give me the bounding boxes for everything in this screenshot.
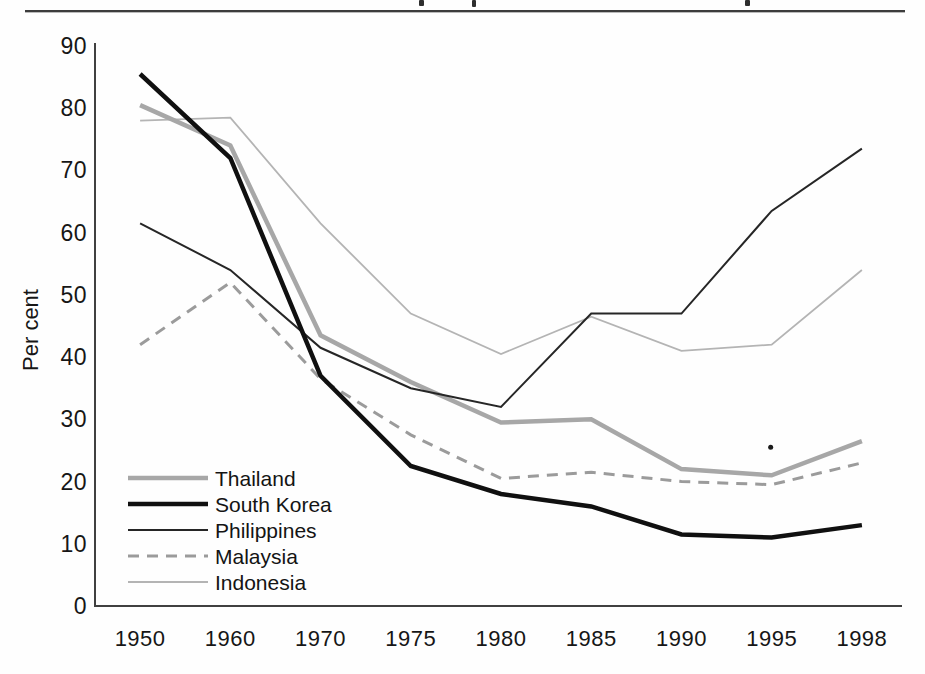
legend-line-sample (128, 573, 208, 591)
y-tick-label-20: 20 (39, 470, 87, 493)
x-tick-label-1960: 1960 (190, 628, 270, 650)
y-tick-label-30: 30 (39, 408, 87, 431)
series-line-indonesia (140, 118, 862, 354)
legend-row-south-korea: South Korea (128, 491, 332, 517)
legend-label: Malaysia (215, 546, 298, 567)
x-tick-label-1975: 1975 (371, 628, 451, 650)
x-tick-label-1985: 1985 (551, 628, 631, 650)
legend-line-sample (128, 495, 208, 513)
legend-label: South Korea (215, 494, 332, 515)
y-tick-label-10: 10 (39, 532, 87, 555)
x-tick-label-1998: 1998 (822, 628, 902, 650)
y-tick-label-40: 40 (39, 346, 87, 369)
legend-row-philippines: Philippines (128, 517, 332, 543)
legend-label: Philippines (215, 520, 317, 541)
y-tick-label-60: 60 (39, 221, 87, 244)
y-tick-label-50: 50 (39, 283, 87, 306)
series-line-thailand (140, 105, 862, 475)
legend-label: Indonesia (215, 572, 306, 593)
legend-label: Thailand (215, 468, 296, 489)
series-line-malaysia (140, 282, 862, 484)
chart-legend: ThailandSouth KoreaPhilippinesMalaysiaIn… (128, 465, 332, 595)
legend-row-indonesia: Indonesia (128, 569, 332, 595)
x-tick-label-1995: 1995 (732, 628, 812, 650)
y-tick-label-90: 90 (39, 35, 87, 58)
figure: Per cent 0102030405060708090 19501960197… (0, 0, 925, 674)
y-tick-label-0: 0 (39, 595, 87, 618)
x-tick-label-1980: 1980 (461, 628, 541, 650)
legend-row-thailand: Thailand (128, 465, 332, 491)
x-tick-label-1950: 1950 (100, 628, 180, 650)
x-tick-label-1970: 1970 (281, 628, 361, 650)
y-tick-label-80: 80 (39, 97, 87, 120)
stray-mark-dot (768, 445, 773, 450)
legend-line-sample (128, 521, 208, 539)
legend-line-sample (128, 547, 208, 565)
x-tick-label-1990: 1990 (641, 628, 721, 650)
legend-row-malaysia: Malaysia (128, 543, 332, 569)
legend-line-sample (128, 469, 208, 487)
y-tick-label-70: 70 (39, 159, 87, 182)
